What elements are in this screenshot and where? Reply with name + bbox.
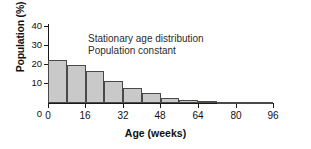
histogram-bar [86, 71, 105, 103]
annotation-line-2: Population constant [88, 45, 204, 57]
chart-figure: Population (%) 40 30 20 10 0 0 16 32 48 … [0, 0, 311, 149]
histogram-bar [236, 102, 255, 104]
histogram-bar [179, 100, 198, 103]
histogram-bar [104, 81, 123, 103]
histogram-bar [48, 60, 67, 103]
annotation-line-1: Stationary age distribution [88, 33, 204, 45]
x-axis-title: Age (weeks) [0, 127, 311, 139]
histogram-bar [67, 65, 86, 104]
histogram-bar [198, 101, 217, 103]
chart-annotation: Stationary age distribution Population c… [88, 33, 204, 56]
histogram-bar [142, 93, 161, 103]
histogram-bar [161, 98, 180, 103]
histogram-bar [123, 88, 142, 103]
histogram-bar [217, 102, 236, 104]
histogram-bar [254, 102, 273, 104]
